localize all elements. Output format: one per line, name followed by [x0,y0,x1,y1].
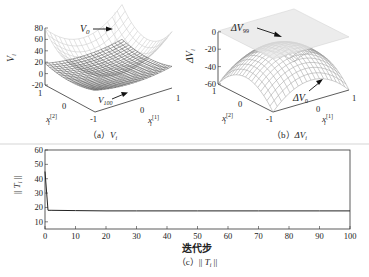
mesh-line [112,17,162,54]
x-axis-label: x[1]i [147,114,159,127]
x-tick-label: 40 [163,231,172,241]
y-tick-1: 1 [38,88,42,98]
plot-frame [45,150,350,229]
y-tick-label: 60 [35,145,44,155]
z-tick-labels: 0-20-40-60 [205,27,221,89]
y-tick-1: 1 [212,86,216,96]
mesh-line [218,75,273,112]
x-tick-1: 1 [176,93,180,103]
plane-fill [218,9,349,59]
x-axis-line [273,90,349,112]
y-tick-neg1: -1 [90,114,97,124]
mesh-line [222,69,277,106]
z-axis-label: Vi [5,54,18,62]
z-tick-label: 40 [35,46,44,56]
y-tick-0: 0 [238,99,242,109]
z-tick-label: -40 [205,62,216,72]
figure: 806040200-20 Vi 1 0 -1 0 1 x[2]i x[1]i V… [0,0,369,277]
y-tick-label: 30 [35,188,44,198]
y-tick-label: 40 [35,174,44,184]
z-tick-label: 0 [212,27,216,37]
series-line-norm-t [45,172,350,211]
x-tick-0: 0 [140,105,144,115]
caption-b: （b）ΔVi [272,130,307,141]
y-axis-line [218,84,273,112]
arrow-head-v100 [121,92,128,97]
x-tick-label: 30 [132,231,141,241]
y-axis-line [45,85,95,112]
x-tick-1: 1 [352,93,356,103]
x-tick-0: 0 [316,104,320,114]
z-tick-label: 80 [35,23,44,33]
y-tick-label: 10 [35,217,44,227]
mesh-line [273,79,349,112]
z-tick-label: 20 [35,57,44,67]
mesh-line [115,43,165,70]
x-tick-label: 60 [224,231,233,241]
y-tick-neg1: -1 [266,114,273,124]
z-axis-label: ΔVi [184,49,197,64]
mesh-line [45,5,122,40]
panel-a-surface-plot: 806040200-20 Vi 1 0 -1 0 1 x[2]i x[1]i V… [5,5,180,141]
z-tick-label: -20 [205,44,216,54]
mesh-line [51,17,128,52]
x-tick-label: 0 [43,231,47,241]
x-tick-label: 20 [102,231,111,241]
y-axis-label: || Ti || [12,175,23,194]
y-tick-label: 50 [35,159,44,169]
z-tick-label: 60 [35,34,44,44]
y-axis-label: x[2]i [221,112,233,125]
mesh-line [122,5,172,42]
y-tick-0: 0 [62,101,66,111]
x-tick-label: 90 [315,231,324,241]
surface-dv99 [218,9,349,59]
y-axis-label: x[2]i [45,113,57,126]
x-tick-label: 100 [344,231,357,241]
x-tick-label: 70 [254,231,263,241]
annotation-dv0: ΔV0 [292,92,308,104]
z-tick-label: 0 [39,69,43,79]
x-tick-label: 80 [285,231,294,241]
y-tick-label: 20 [35,202,44,212]
panel-b-surface-plot: 0-20-40-60 ΔVi 1 0 -1 0 1 x[2]i x[1]i ΔV… [184,9,356,141]
z-tick-labels: 806040200-20 [32,23,48,90]
x-axis-label: x[1]i [321,113,333,126]
x-tick-label: 10 [71,231,80,241]
caption-a: （a）Vi [88,130,118,141]
annotation-v100: V100 [98,95,113,106]
mesh-line [117,11,167,48]
panel-c-line-chart: 102030405060 0102030405060708090100 || T… [12,145,356,268]
x-tick-labels: 0102030405060708090100 [43,226,357,241]
x-axis-label: 迭代步 [182,242,212,254]
caption-c: （c）|| Ti || [177,257,218,268]
annotation-v0: V0 [80,23,90,36]
x-tick-label: 50 [193,231,202,241]
